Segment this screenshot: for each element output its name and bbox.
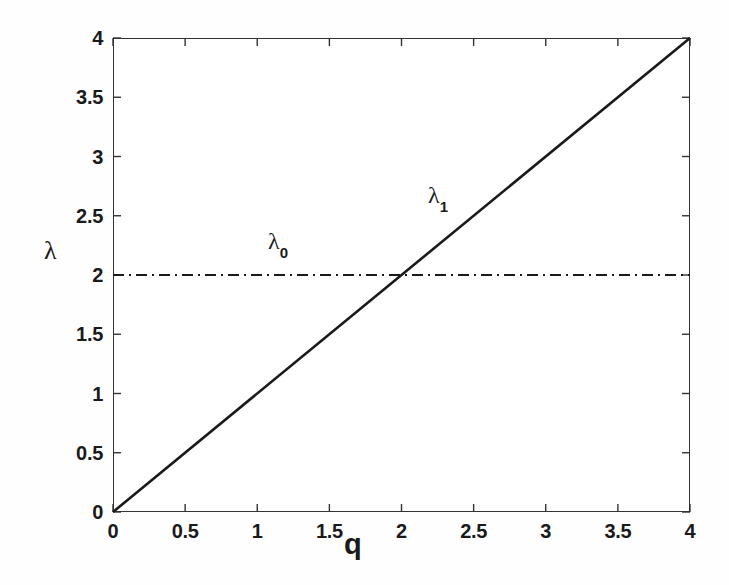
- x-axis-title: q: [344, 528, 362, 561]
- y-tick-label-1: 0.5: [76, 441, 103, 464]
- y-tick-label-2: 1: [92, 382, 103, 405]
- plot-area: [113, 38, 690, 512]
- y-tick-label-3: 1.5: [76, 323, 103, 346]
- x-tick-label-2: 1: [252, 520, 263, 543]
- x-tick-label-7: 3.5: [604, 520, 631, 543]
- x-tick-label-5: 2.5: [460, 520, 487, 543]
- x-tick-label-8: 4: [685, 520, 696, 543]
- series-label-lambda1-subscript: 1: [440, 198, 448, 215]
- series-label-lambda1: λ1: [428, 182, 448, 212]
- y-tick-label-6: 3: [92, 145, 103, 168]
- series-label-lambda0: λ0: [268, 228, 288, 258]
- series-label-lambda1-base: λ: [428, 182, 440, 208]
- y-axis-title: λ: [44, 236, 57, 266]
- x-tick-label-6: 3: [540, 520, 551, 543]
- x-tick-label-3: 1.5: [316, 520, 343, 543]
- y-tick-label-0: 0: [92, 501, 103, 524]
- x-tick-label-1: 0.5: [172, 520, 199, 543]
- y-tick-label-4: 2: [92, 264, 103, 287]
- y-tick-label-8: 4: [92, 27, 103, 50]
- y-tick-label-5: 2.5: [76, 204, 103, 227]
- series-label-lambda0-base: λ: [268, 228, 280, 254]
- y-tick-label-7: 3.5: [76, 86, 103, 109]
- series-label-lambda0-subscript: 0: [280, 244, 288, 261]
- x-tick-label-0: 0: [108, 520, 119, 543]
- figure-container: 00.511.522.533.54 00.511.522.533.54 λ q …: [0, 0, 729, 585]
- x-tick-label-4: 2: [396, 520, 407, 543]
